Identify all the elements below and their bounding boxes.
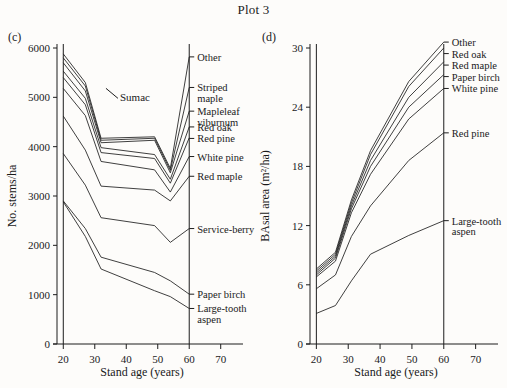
series-label: Large-tooth bbox=[197, 303, 247, 314]
y-tick-label: 4000 bbox=[28, 141, 51, 153]
series-line bbox=[63, 63, 189, 173]
series-line bbox=[63, 116, 189, 201]
x-tick-label: 60 bbox=[438, 353, 450, 365]
series-label: maple bbox=[197, 93, 223, 104]
x-tick-label: 70 bbox=[470, 353, 482, 365]
series-label: Other bbox=[197, 52, 221, 63]
x-tick-label: 40 bbox=[121, 353, 133, 365]
y-tick-label: 5000 bbox=[28, 91, 51, 103]
series-line bbox=[316, 42, 443, 269]
x-tick-label: 50 bbox=[152, 353, 164, 365]
y-axis-label: BAsal area (m²/ha) bbox=[258, 150, 272, 242]
series-label: Red oak bbox=[197, 122, 232, 133]
x-tick-label: 30 bbox=[89, 353, 101, 365]
series-label: Red maple bbox=[452, 60, 498, 71]
series-label: Large-tooth bbox=[452, 216, 502, 227]
y-tick-label: 12 bbox=[292, 220, 303, 232]
y-tick-label: 0 bbox=[298, 338, 304, 350]
series-label: Red oak bbox=[452, 49, 487, 60]
series-label: Paper birch bbox=[452, 72, 501, 83]
y-tick-label: 2000 bbox=[28, 239, 51, 251]
series-label: White pine bbox=[197, 152, 244, 163]
y-axis-label: No. stems/ha bbox=[5, 164, 19, 227]
series-label: Service-berry bbox=[197, 224, 255, 235]
series-label: Other bbox=[452, 37, 476, 48]
series-line bbox=[316, 133, 443, 289]
series-line bbox=[316, 221, 443, 314]
series-label: Mapleleaf bbox=[197, 106, 240, 117]
chart-canvas: 0100020003000400050006000203040506070Oth… bbox=[0, 0, 507, 388]
series-line bbox=[63, 202, 189, 309]
series-label: Red pine bbox=[197, 133, 235, 144]
x-tick-label: 60 bbox=[184, 353, 196, 365]
x-axis-label: Stand age (years) bbox=[354, 365, 437, 379]
series-label: Paper birch bbox=[197, 289, 246, 300]
x-tick-label: 20 bbox=[58, 353, 70, 365]
series-line bbox=[63, 88, 189, 192]
x-tick-label: 50 bbox=[406, 353, 418, 365]
series-line bbox=[316, 62, 443, 273]
series-label: aspen bbox=[197, 314, 222, 325]
x-tick-label: 40 bbox=[375, 353, 387, 365]
y-tick-label: 18 bbox=[292, 160, 304, 172]
series-line bbox=[63, 201, 189, 294]
figure-plot-3: Plot 3 (c) (d) 0100020003000400050006000… bbox=[0, 0, 507, 388]
y-tick-label: 24 bbox=[292, 101, 304, 113]
y-tick-label: 3000 bbox=[28, 190, 51, 202]
y-tick-label: 6000 bbox=[28, 42, 51, 54]
series-label: Red pine bbox=[452, 128, 490, 139]
y-tick-label: 1000 bbox=[28, 289, 51, 301]
series-label: White pine bbox=[452, 83, 499, 94]
annotation-label: Sumac bbox=[120, 91, 150, 103]
series-label: Red maple bbox=[197, 171, 243, 182]
x-axis-label: Stand age (years) bbox=[100, 365, 183, 379]
panel-c-stems: 0100020003000400050006000203040506070Oth… bbox=[5, 42, 255, 379]
series-label: aspen bbox=[452, 226, 477, 237]
x-tick-label: 70 bbox=[215, 353, 227, 365]
x-tick-label: 30 bbox=[343, 353, 355, 365]
x-tick-label: 20 bbox=[311, 353, 323, 365]
y-tick-label: 30 bbox=[292, 42, 304, 54]
series-line bbox=[63, 58, 189, 170]
series-line bbox=[316, 88, 443, 276]
panel-d-basal-area: 0612182430203040506070OtherRed oakRed ma… bbox=[258, 37, 502, 379]
y-tick-label: 6 bbox=[298, 279, 304, 291]
y-tick-label: 0 bbox=[45, 338, 51, 350]
series-label: Striped bbox=[197, 82, 228, 93]
